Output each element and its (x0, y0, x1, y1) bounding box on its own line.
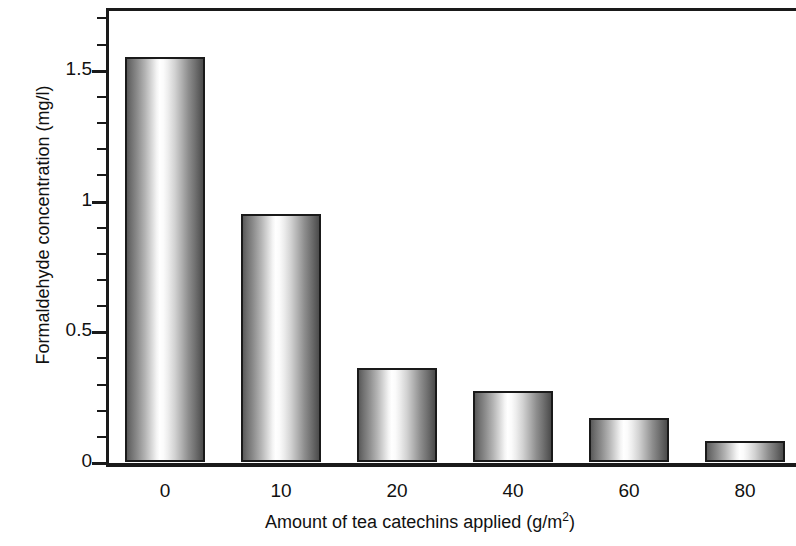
plot-frame-top (106, 8, 796, 11)
y-axis-minor-tick (97, 305, 109, 307)
y-axis-tick-label: 1 (2, 189, 92, 211)
y-axis-major-tick (92, 331, 109, 334)
x-axis-tick-label: 80 (705, 480, 785, 502)
x-axis-title-tail: ) (569, 512, 575, 532)
y-axis-major-tick (92, 462, 109, 465)
x-axis-title-base: Amount of tea catechins applied (g/m (265, 512, 562, 532)
bar (473, 391, 553, 462)
y-axis-major-tick (92, 201, 109, 204)
y-axis-tick-label: 0 (2, 450, 92, 472)
y-axis-minor-tick (97, 279, 109, 281)
y-axis-minor-tick (97, 436, 109, 438)
y-axis-minor-tick (97, 17, 109, 19)
x-axis-title-exponent: 2 (562, 510, 569, 524)
y-axis-minor-tick (97, 253, 109, 255)
bar (357, 368, 437, 462)
x-axis-tick-label: 10 (241, 480, 321, 502)
bar-chart-figure: Formaldehyde concentration (mg/l) 00.511… (0, 0, 796, 546)
y-axis-minor-tick (97, 44, 109, 46)
x-axis-tick-label: 20 (357, 480, 437, 502)
y-axis-minor-tick (97, 148, 109, 150)
x-axis-title: Amount of tea catechins applied (g/m2) (100, 512, 740, 533)
y-axis-tick-label: 1.5 (2, 58, 92, 80)
y-axis-tick-label: 0.5 (2, 319, 92, 341)
y-axis-minor-tick (97, 96, 109, 98)
bar (125, 57, 205, 462)
y-axis-minor-tick (97, 410, 109, 412)
y-axis-minor-tick (97, 384, 109, 386)
plot-area: 00.511.5 01020406080 (106, 8, 796, 466)
bar (589, 418, 669, 462)
x-axis-tick-label: 40 (473, 480, 553, 502)
bar (241, 214, 321, 462)
bar (705, 441, 785, 462)
x-axis-tick-label: 60 (589, 480, 669, 502)
x-axis-tick-label: 0 (125, 480, 205, 502)
y-axis-minor-tick (97, 174, 109, 176)
plot-frame-left (106, 8, 109, 466)
y-axis-minor-tick (97, 357, 109, 359)
x-axis-line (106, 463, 796, 467)
y-axis-minor-tick (97, 227, 109, 229)
y-axis-minor-tick (97, 122, 109, 124)
y-axis-major-tick (92, 70, 109, 73)
